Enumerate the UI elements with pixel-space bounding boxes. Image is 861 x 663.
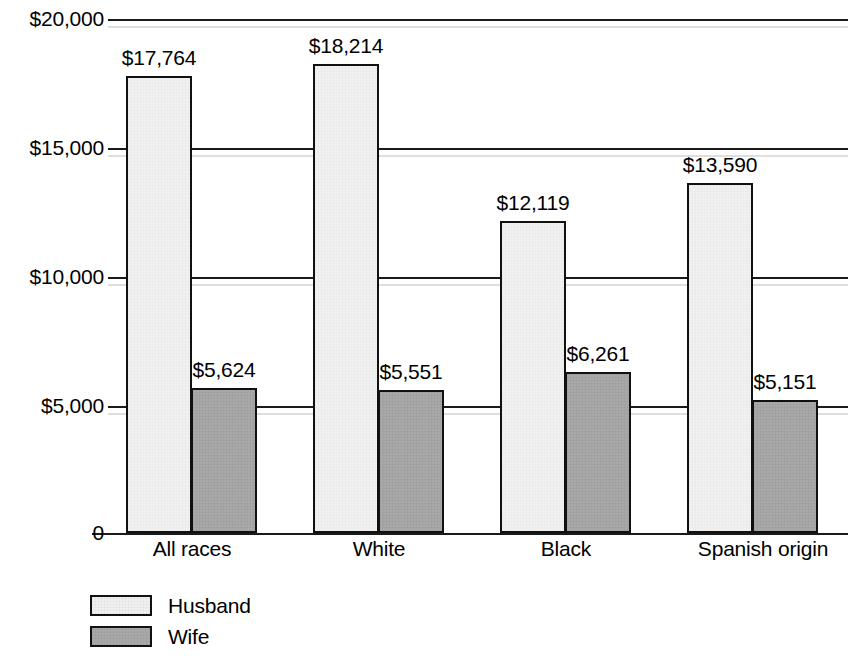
ytick-label-0: 0: [0, 522, 104, 543]
ytick-label-5000: $5,000: [0, 395, 104, 416]
ytick-label-15000: $15,000: [0, 137, 104, 158]
chart-legend: Husband Wife: [90, 592, 251, 654]
bar-husband-black: [500, 221, 566, 533]
bar-wife-white: [378, 390, 444, 533]
legend-item-wife: Wife: [90, 623, 251, 650]
legend-swatch-husband: [90, 595, 152, 616]
category-label-black: Black: [486, 538, 646, 560]
bar-wife-black: [565, 372, 631, 533]
bar-wife-spanish-origin: [752, 400, 818, 533]
bar-wife-all-races: [191, 388, 257, 533]
ytick-label-10000: $10,000: [0, 266, 104, 287]
category-label-white: White: [299, 538, 459, 560]
bar-chart: $20,000 $15,000 $10,000 $5,000 0 $17,764…: [0, 0, 861, 663]
bar-husband-spanish-origin: [687, 183, 753, 533]
bar-value-wife-spanish-origin: $5,151: [715, 371, 855, 392]
category-label-spanish-origin: Spanish origin: [673, 538, 853, 560]
plot-area: $20,000 $15,000 $10,000 $5,000 0 $17,764…: [0, 0, 861, 663]
ytick-label-20000: $20,000: [0, 8, 104, 29]
legend-swatch-wife: [90, 626, 152, 647]
bar-value-wife-all-races: $5,624: [154, 359, 294, 380]
legend-label-husband: Husband: [168, 595, 251, 616]
bar-value-husband-spanish-origin: $13,590: [650, 154, 790, 175]
bar-husband-all-races: [126, 76, 192, 533]
legend-item-husband: Husband: [90, 592, 251, 619]
bar-value-husband-all-races: $17,764: [89, 47, 229, 68]
category-label-all-races: All races: [112, 538, 272, 560]
bar-value-husband-white: $18,214: [276, 35, 416, 56]
bar-husband-white: [313, 64, 379, 533]
bar-value-wife-white: $5,551: [341, 361, 481, 382]
axis-baseline-0: [92, 533, 848, 535]
bar-value-wife-black: $6,261: [528, 343, 668, 364]
gridline-15000: [108, 148, 848, 150]
legend-label-wife: Wife: [168, 626, 209, 647]
bar-value-husband-black: $12,119: [463, 192, 603, 213]
gridline-20000: [108, 19, 848, 21]
